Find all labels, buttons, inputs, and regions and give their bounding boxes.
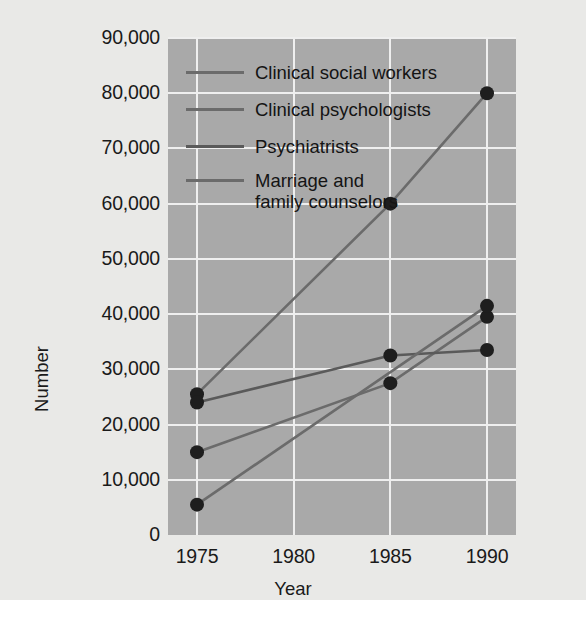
data-point-marker [190, 445, 204, 459]
y-axis-title: Number [31, 319, 53, 439]
legend-line-swatch [186, 71, 244, 74]
y-axis-tick-label: 80,000 [10, 81, 160, 104]
legend-item: Clinical psychologists [186, 99, 431, 120]
legend-item-label: Clinical social workers [255, 62, 437, 83]
series-line [197, 350, 487, 402]
x-axis-tick-label: 1985 [345, 545, 435, 568]
y-axis-tick-label: 0 [10, 523, 160, 546]
x-axis-tick-label: 1990 [442, 545, 532, 568]
x-axis-tick-labels: 1975198019851990 [0, 545, 586, 575]
legend-line-swatch [186, 179, 244, 182]
data-point-marker [480, 299, 494, 313]
legend-line-swatch [186, 108, 244, 111]
legend-item: Clinical social workers [186, 62, 437, 83]
x-axis-tick-label: 1980 [249, 545, 339, 568]
x-axis-title: Year [0, 578, 586, 600]
data-point-marker [190, 498, 204, 512]
y-axis-tick-label: 60,000 [10, 192, 160, 215]
legend-item: Psychiatrists [186, 136, 359, 157]
data-point-marker [190, 395, 204, 409]
y-axis-tick-label: 90,000 [10, 26, 160, 49]
y-axis-tick-label: 50,000 [10, 247, 160, 270]
y-axis-tick-label: 10,000 [10, 468, 160, 491]
data-point-marker [480, 343, 494, 357]
legend-item-label: Clinical psychologists [255, 99, 431, 120]
legend-item-label: Marriage and family counselors [255, 170, 398, 212]
x-axis-tick-label: 1975 [152, 545, 242, 568]
legend-item: Marriage and family counselors [186, 170, 398, 212]
chart-figure: 010,00020,00030,00040,00050,00060,00070,… [0, 0, 586, 620]
data-point-marker [383, 376, 397, 390]
data-point-marker [480, 86, 494, 100]
legend-line-swatch [186, 145, 244, 148]
y-axis-tick-label: 70,000 [10, 136, 160, 159]
legend-item-label: Psychiatrists [255, 136, 359, 157]
y-axis-tick-labels: 010,00020,00030,00040,00050,00060,00070,… [4, 0, 160, 620]
series-line [197, 306, 487, 505]
data-point-marker [383, 349, 397, 363]
